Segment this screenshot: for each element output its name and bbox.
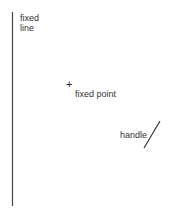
handle-label: handle	[120, 130, 147, 140]
fixed-line-label: fixed line	[20, 13, 39, 33]
fixed-line-label-line2: line	[20, 23, 39, 33]
fixed-point-marker: +	[66, 79, 72, 90]
fixed-point-label: fixed point	[75, 89, 116, 99]
fixed-line-label-line1: fixed	[20, 13, 39, 23]
